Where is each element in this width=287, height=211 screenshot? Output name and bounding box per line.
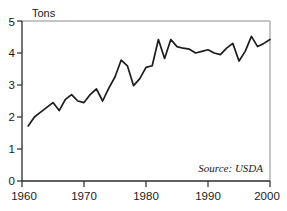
y-tick-label-4: 4 — [9, 47, 16, 59]
chart-container: 0 1 2 3 4 5 1960 1970 1980 1990 2000 Ton… — [0, 0, 287, 211]
y-tick-labels: 0 1 2 3 4 5 — [9, 16, 16, 187]
line-chart: 0 1 2 3 4 5 1960 1970 1980 1990 2000 Ton… — [0, 0, 287, 211]
x-tick-label-1970: 1970 — [71, 190, 97, 202]
y-tick-label-2: 2 — [9, 111, 15, 123]
x-tick-label-2000: 2000 — [254, 190, 280, 202]
data-series-line — [28, 36, 270, 126]
source-annotation: Source: USDA — [198, 162, 263, 174]
x-tick-marks — [22, 181, 270, 187]
y-tick-label-0: 0 — [9, 175, 15, 187]
x-tick-label-1960: 1960 — [11, 190, 37, 202]
y-tick-label-1: 1 — [9, 143, 15, 155]
y-tick-label-3: 3 — [9, 79, 15, 91]
x-tick-label-1990: 1990 — [195, 190, 221, 202]
y-tick-label-5: 5 — [9, 16, 15, 28]
y-axis-label: Tons — [32, 7, 56, 19]
x-tick-labels: 1960 1970 1980 1990 2000 — [11, 190, 280, 202]
y-tick-marks — [17, 21, 22, 181]
x-tick-label-1980: 1980 — [133, 190, 159, 202]
